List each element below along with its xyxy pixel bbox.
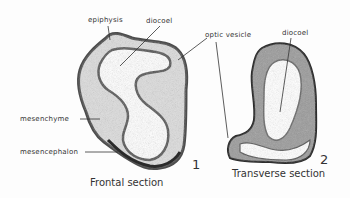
- caption-transverse-section: Transverse section: [232, 168, 325, 179]
- label-diocoel-frontal: diocoel: [146, 17, 172, 25]
- section-number-1: 1: [192, 157, 200, 172]
- embryo-brain-sections-figure: epiphysis diocoel optic vesicle diocoel …: [0, 0, 350, 198]
- label-epiphysis: epiphysis: [88, 16, 123, 24]
- label-optic-vesicle: optic vesicle: [205, 31, 251, 39]
- label-mesenchyme: mesenchyme: [20, 115, 69, 123]
- label-mesencephalon: mesencephalon: [20, 148, 78, 156]
- transverse-section-drawing: [228, 43, 316, 163]
- section-number-2: 2: [320, 152, 328, 167]
- caption-frontal-section: Frontal section: [90, 177, 163, 188]
- label-diocoel-transverse: diocoel: [282, 29, 308, 37]
